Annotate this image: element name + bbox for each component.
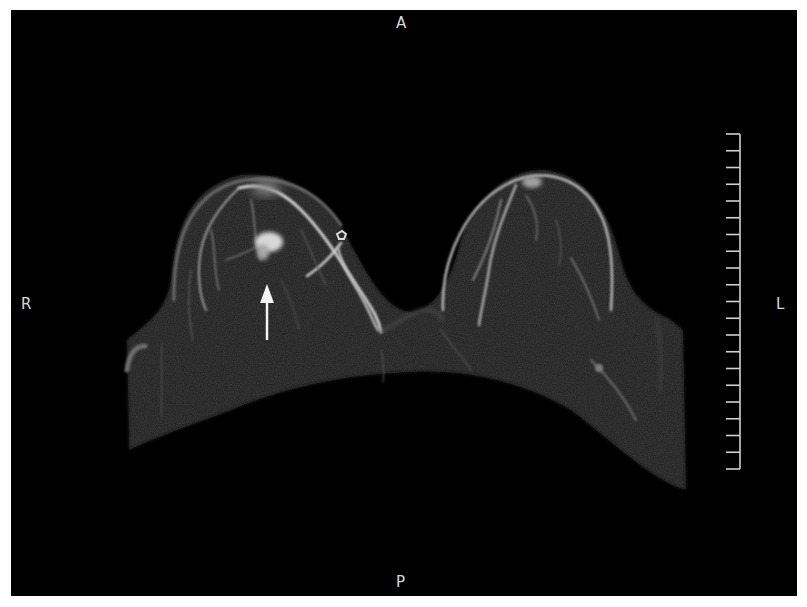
mri-image-panel: A P R L	[11, 10, 797, 596]
orientation-label-right: R	[21, 297, 31, 312]
mri-scan-render	[11, 10, 797, 596]
orientation-label-left: L	[776, 297, 784, 312]
body-soft-tissue	[111, 160, 701, 500]
scale-bar	[726, 134, 740, 469]
orientation-label-anterior: A	[396, 16, 406, 31]
orientation-label-posterior: P	[396, 575, 405, 590]
